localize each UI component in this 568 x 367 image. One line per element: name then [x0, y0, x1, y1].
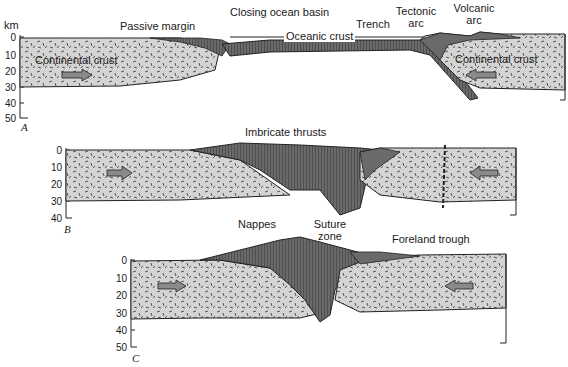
depth-tick: 50 [107, 343, 127, 353]
panel-c [131, 237, 506, 347]
label-continental-crust-left: Continental crust [35, 54, 118, 66]
label-passive-margin: Passive margin [120, 20, 195, 32]
panel-letter-c: C [132, 352, 139, 364]
label-tectonic-arc-line2: arc [392, 17, 440, 29]
depth-tick: 0 [0, 33, 16, 43]
label-nappes: Nappes [238, 218, 276, 230]
depth-tick: 40 [107, 326, 127, 336]
label-closing-ocean-basin: Closing ocean basin [230, 6, 329, 18]
depth-tick: 30 [42, 197, 62, 207]
depth-tick: 30 [107, 309, 127, 319]
label-trench: Trench [356, 18, 390, 30]
depth-tick: 40 [0, 99, 16, 109]
label-tectonic-arc-line1: Tectonic [392, 5, 440, 17]
label-suture-zone-line1: Suture [310, 218, 350, 230]
label-imbricate-thrusts: Imbricate thrusts [245, 126, 326, 138]
label-oceanic-crust: Oceanic crust [284, 30, 355, 42]
label-volcanic-arc-line1: Volcanic [448, 2, 500, 14]
depth-tick: 50 [0, 114, 16, 124]
label-continental-crust-right: Continental crust [455, 53, 538, 65]
panel-a [20, 32, 565, 118]
unit-label-km: km [4, 19, 19, 31]
depth-tick: 20 [107, 291, 127, 301]
label-suture-zone-line2: zone [310, 230, 350, 242]
label-foreland-trough: Foreland trough [392, 233, 470, 245]
depth-tick: 10 [42, 163, 62, 173]
panel-b [66, 143, 516, 218]
label-volcanic-arc-line2: arc [448, 14, 500, 26]
panel-letter-b: B [64, 223, 71, 235]
depth-tick: 30 [0, 83, 16, 93]
depth-tick: 10 [0, 51, 16, 61]
depth-tick: 10 [107, 274, 127, 284]
depth-tick: 0 [42, 146, 62, 156]
panel-letter-a: A [21, 121, 28, 133]
depth-tick: 0 [107, 256, 127, 266]
depth-tick: 20 [0, 67, 16, 77]
depth-tick: 20 [42, 180, 62, 190]
depth-tick: 40 [42, 214, 62, 224]
